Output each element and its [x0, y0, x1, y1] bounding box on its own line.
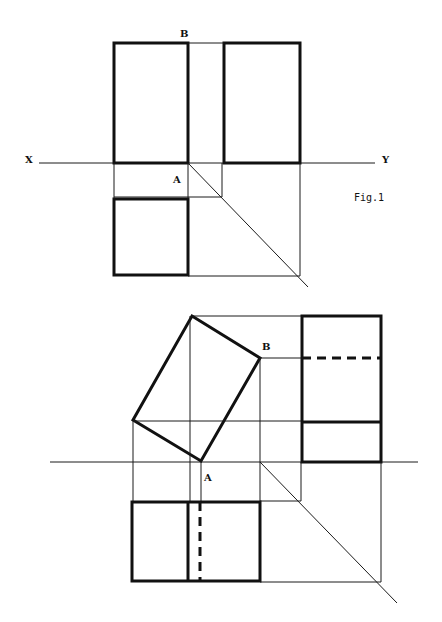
figure-1: X Y B A Fig.1 [25, 28, 390, 287]
tilted-front-elevation [133, 316, 260, 461]
label-y: Y [381, 154, 390, 165]
label-a: A [172, 174, 181, 185]
plan-view [114, 199, 188, 275]
mitre-line [188, 163, 308, 287]
figure-caption: Fig.1 [354, 192, 384, 203]
orthographic-drawing: X Y B A Fig.1 B A [0, 0, 442, 622]
label-x: X [25, 154, 33, 165]
side-elevation [224, 43, 300, 163]
label-a: A [203, 472, 212, 483]
side-elevation [302, 316, 381, 462]
label-b: B [180, 28, 188, 39]
front-elevation [114, 43, 188, 163]
label-b: B [262, 341, 270, 352]
plan-view [132, 502, 260, 581]
figure-2: B A [50, 316, 418, 603]
